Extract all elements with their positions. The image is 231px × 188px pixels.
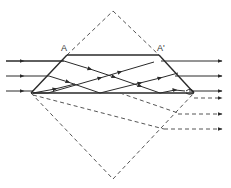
label-a: A	[61, 43, 67, 53]
dove-prism-diagram: A A'	[0, 0, 231, 188]
unfolded-square-dashed	[31, 11, 194, 179]
input-rays	[6, 61, 64, 91]
internal-rays	[33, 61, 185, 93]
virtual-rays-dashed	[33, 93, 222, 129]
label-a-prime: A'	[157, 43, 165, 53]
output-rays	[161, 61, 222, 91]
